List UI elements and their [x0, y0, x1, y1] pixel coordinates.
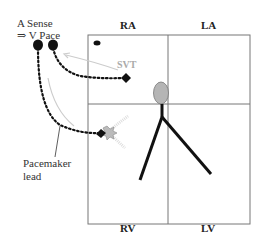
- pacemaker-pointer-line: [55, 126, 60, 157]
- pointer-layer: [0, 0, 265, 235]
